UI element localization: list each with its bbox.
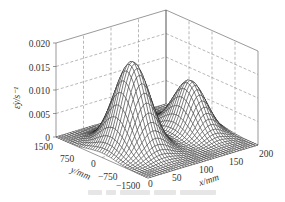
y-tick-0: 1500: [34, 142, 53, 152]
y-axis-label: y/mm: [68, 164, 92, 181]
z-tick-4: 0.020: [29, 39, 51, 49]
x-tick-3: 150: [229, 157, 244, 167]
z-tick-2: 0.010: [29, 86, 51, 96]
x-tick-0: 0: [148, 179, 153, 189]
y-tick-2: 0: [91, 159, 96, 169]
surface-mesh: [56, 62, 258, 179]
y-tick-3: −750: [98, 172, 118, 182]
surface-chart: 0 0.005 0.010 0.015 0.020 1500 750 0 −75…: [0, 0, 285, 202]
y-tick-1: 750: [60, 154, 75, 164]
z-tick-1: 0.005: [29, 110, 51, 120]
figure-caption: [88, 190, 228, 196]
x-tick-1: 50: [172, 173, 182, 183]
z-axis-label: ε̇y/s⁻¹: [12, 87, 22, 109]
x-tick-4: 200: [259, 149, 274, 159]
z-tick-3: 0.015: [29, 63, 51, 73]
